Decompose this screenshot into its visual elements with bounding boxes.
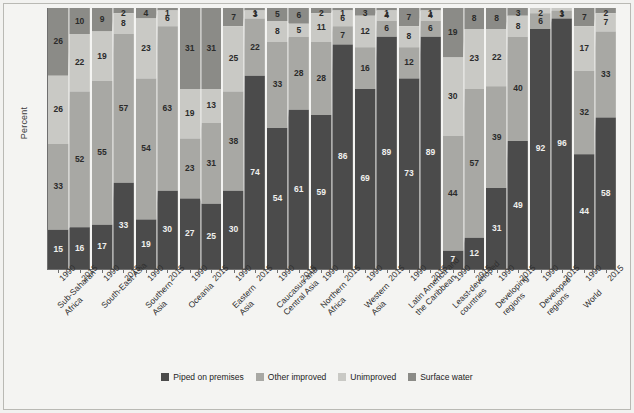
bar-gutter: [244, 8, 245, 269]
bar-group-shape: [48, 8, 90, 269]
bar-group: 583354652861: [267, 8, 309, 269]
bar-gutter: [331, 8, 332, 269]
bar-gutter: [112, 8, 113, 269]
bar-group: 9195517285733: [92, 8, 134, 269]
bar-group-shape: [92, 8, 134, 269]
bar-group-shape: [223, 8, 265, 269]
bar-gutter: [68, 8, 69, 269]
bar-gutter: [375, 8, 376, 269]
x-tick: [80, 269, 81, 273]
legend-label: Other improved: [268, 372, 327, 382]
bar-group-shape: [311, 8, 353, 269]
bar-group: 8223931384049: [486, 8, 528, 269]
bar-gutter: [551, 8, 552, 269]
legend-item[interactable]: Unimproved: [338, 372, 396, 382]
legend-swatch-icon: [161, 373, 169, 381]
bar-gutter: [156, 8, 157, 269]
bar-group-shape: [180, 8, 222, 269]
legend-swatch-icon: [338, 373, 346, 381]
legend-item[interactable]: Other improved: [256, 372, 327, 382]
bar-group: 2626331510225216: [48, 8, 90, 269]
legend-item[interactable]: Surface water: [408, 372, 472, 382]
bar-gutter: [507, 8, 508, 269]
bar-group: 312166914689: [355, 8, 397, 269]
legend-swatch-icon: [256, 373, 264, 381]
x-tick: [343, 269, 344, 273]
y-axis-label: Percent: [19, 83, 29, 163]
legend-swatch-icon: [408, 373, 416, 381]
bar-group: 211285916786: [311, 8, 353, 269]
legend-item[interactable]: Piped on premises: [161, 372, 243, 382]
bar-gutter: [288, 8, 289, 269]
bar-group: 19304478235712: [443, 8, 485, 269]
bar-group: 7253830132274: [223, 8, 265, 269]
bar-group: 7173244273358: [574, 8, 616, 269]
bar-group-shape: [136, 8, 178, 269]
legend-label: Surface water: [420, 372, 472, 382]
bar-group: 26921396: [530, 8, 572, 269]
x-tick: [541, 269, 542, 273]
bar-gutter: [419, 8, 420, 269]
legend-label: Piped on premises: [173, 372, 243, 382]
legend-label: Unimproved: [350, 372, 396, 382]
x-tick: [190, 269, 191, 273]
bar-group: 3119232731133125: [180, 8, 222, 269]
bar-group: 78127314689: [399, 8, 441, 269]
x-tick: [234, 269, 235, 273]
chart-legend: Piped on premisesOther improvedUnimprove…: [0, 372, 634, 382]
bar-group-shape: [355, 8, 397, 269]
bar-group-shape: [267, 8, 309, 269]
x-tick: [387, 269, 388, 273]
bar-gutter: [463, 8, 464, 269]
bar-group-shape: [574, 8, 616, 269]
bar-group-shape: [443, 8, 485, 269]
bar-gutter: [595, 8, 596, 269]
bar-group-shape: [530, 8, 572, 269]
chart-page: Percent 26263315102252169195517285733423…: [0, 0, 634, 413]
bar-group-shape: [486, 8, 528, 269]
plot-area: 2626331510225216919551728573342354191663…: [48, 8, 616, 269]
bar-group-shape: [399, 8, 441, 269]
bar-gutter: [200, 8, 201, 269]
bar-group: 4235419166330: [136, 8, 178, 269]
